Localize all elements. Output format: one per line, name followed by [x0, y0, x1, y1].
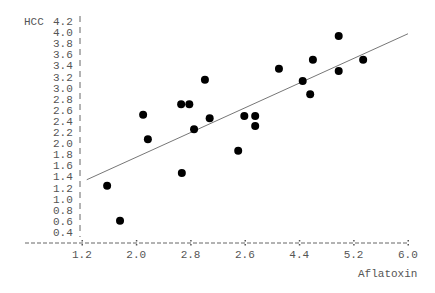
data-point: [116, 217, 124, 225]
data-point: [306, 90, 314, 98]
data-point: [335, 32, 343, 40]
x-tick-mark: [136, 240, 138, 242]
regression-line: [87, 34, 408, 180]
x-tick-label: 6.0: [398, 249, 418, 261]
x-tick-mark: [82, 240, 84, 242]
x-tick-mark: [190, 244, 192, 246]
x-tick-label: 2.8: [181, 249, 201, 261]
data-point: [177, 100, 185, 108]
x-tick-mark: [299, 244, 301, 246]
x-tick-label: 2.6: [235, 249, 255, 261]
x-tick-mark: [82, 244, 84, 246]
data-point: [309, 56, 317, 64]
y-tick-label: 0.4: [53, 227, 73, 239]
data-point: [103, 182, 111, 190]
data-point: [251, 122, 259, 130]
data-point: [234, 147, 242, 155]
x-axis: 1.22.02.82.64.45.26.0: [25, 240, 418, 261]
data-point: [201, 76, 209, 84]
x-tick-mark: [353, 244, 355, 246]
x-tick-mark: [136, 244, 138, 246]
data-point: [275, 65, 283, 73]
x-tick-mark: [299, 240, 301, 242]
x-tick-mark: [407, 244, 409, 246]
data-point: [359, 56, 367, 64]
data-point: [139, 111, 147, 119]
data-point: [206, 114, 214, 122]
y-axis: 4.24.03.83.63.43.23.02.82.62.42.22.01.81…: [53, 16, 80, 239]
x-tick-label: 2.0: [126, 249, 146, 261]
data-point: [185, 100, 193, 108]
data-point: [335, 67, 343, 75]
data-point: [190, 125, 198, 133]
x-tick-label: 5.2: [344, 249, 364, 261]
data-points: [103, 32, 367, 225]
data-point: [178, 169, 186, 177]
y-axis-label: HCC: [24, 16, 44, 28]
data-point: [299, 77, 307, 85]
x-axis-label: Aflatoxin: [358, 268, 417, 280]
x-tick-label: 4.4: [289, 249, 309, 261]
x-tick-label: 1.2: [72, 249, 92, 261]
x-tick-mark: [353, 240, 355, 242]
x-tick-mark: [244, 244, 246, 246]
data-point: [251, 112, 259, 120]
scatter-chart: HCC 4.24.03.83.63.43.23.02.82.62.42.22.0…: [0, 0, 435, 293]
x-tick-mark: [244, 240, 246, 242]
data-point: [240, 112, 248, 120]
x-tick-mark: [190, 240, 192, 242]
data-point: [144, 135, 152, 143]
x-tick-mark: [407, 240, 409, 242]
